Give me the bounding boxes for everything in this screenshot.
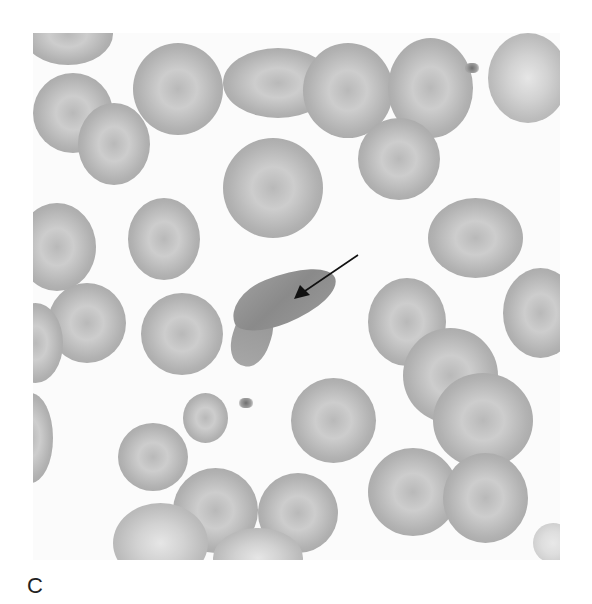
platelet: [465, 63, 479, 73]
red-blood-cell: [33, 33, 113, 65]
red-blood-cell: [503, 268, 560, 358]
red-blood-cell: [141, 293, 223, 375]
panel-label: C: [27, 573, 43, 599]
red-blood-cell: [133, 43, 223, 135]
red-blood-cell: [78, 103, 150, 185]
red-blood-cell: [223, 138, 323, 238]
red-blood-cell: [533, 523, 560, 560]
micrograph-image: [33, 33, 560, 560]
red-blood-cell: [33, 393, 53, 483]
red-blood-cell: [33, 203, 96, 291]
red-blood-cell: [118, 423, 188, 491]
platelet: [239, 398, 253, 408]
red-blood-cell: [358, 118, 440, 200]
red-blood-cell: [291, 378, 376, 463]
red-blood-cell: [128, 198, 200, 280]
red-blood-cell: [443, 453, 528, 543]
red-blood-cell: [428, 198, 523, 278]
arrow-annotation-icon: [288, 251, 368, 301]
red-blood-cell: [183, 393, 228, 443]
red-blood-cell: [488, 33, 560, 123]
